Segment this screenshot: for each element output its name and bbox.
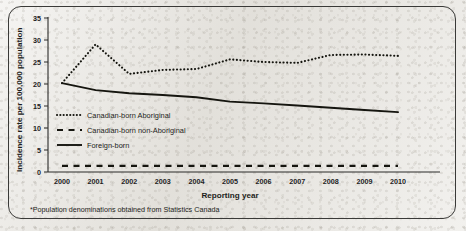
x-tick-label: 2007: [289, 177, 305, 186]
chart-figure: Incidence rate per 100,000 population 35…: [0, 0, 466, 231]
x-tick-label: 2002: [121, 177, 137, 186]
y-tick-label: 5: [37, 146, 41, 155]
y-tick-label: 30: [33, 36, 41, 45]
y-tick-label: 0: [37, 168, 41, 177]
legend-label-foreign-born: Foreign-born: [87, 141, 129, 150]
y-axis-title: Incidence rate per 100,000 population: [15, 28, 24, 172]
x-tick-label: 2008: [323, 177, 339, 186]
y-tick-label: 10: [33, 124, 41, 133]
y-tick-label: 35: [33, 14, 41, 23]
x-tick-label: 2001: [88, 177, 104, 186]
x-tick-label: 2004: [188, 177, 204, 186]
x-axis-ticklabels: 2000 2001 2002 2003 2004 2005 2006 2007 …: [54, 177, 406, 186]
series-line-foreign-born: [62, 83, 398, 112]
y-tick-label: 20: [33, 80, 41, 89]
chart-legend: Canadian-born Aboriginal Canadian-born n…: [57, 111, 186, 150]
x-tick-label: 2010: [390, 177, 406, 186]
x-tick-label: 2000: [54, 177, 70, 186]
legend-label-canadian-born-aboriginal: Canadian-born Aboriginal: [87, 111, 171, 120]
x-tick-label: 2006: [256, 177, 272, 186]
y-axis-tickmarks: [44, 18, 48, 172]
y-tick-label: 15: [33, 102, 41, 111]
y-axis-ticklabels: 35 30 25 20 15 10 5 0: [33, 14, 41, 177]
x-tick-label: 2003: [155, 177, 171, 186]
line-chart-svg: Incidence rate per 100,000 population 35…: [0, 0, 466, 231]
y-tick-label: 25: [33, 58, 41, 67]
x-tick-label: 2009: [356, 177, 372, 186]
chart-footnote: *Population denominations obtained from …: [30, 205, 219, 214]
legend-label-canadian-born-non-aboriginal: Canadian-born non-Aboriginal: [87, 126, 186, 135]
x-axis-title: Reporting year: [201, 191, 259, 200]
series-line-canadian-born-aboriginal: [62, 44, 398, 83]
x-tick-label: 2005: [222, 177, 238, 186]
